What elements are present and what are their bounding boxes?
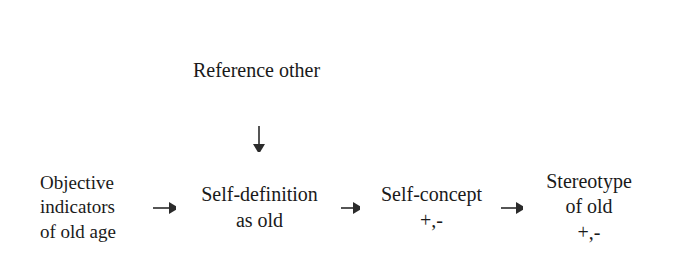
node-self-concept[interactable]: Self-concept +,-	[360, 152, 503, 263]
node-self-concept-line-1: Self-concept	[381, 182, 482, 208]
node-reference-other-line-1: Reference other	[193, 58, 320, 84]
node-self-definition-as-old[interactable]: Self-definition as old	[176, 152, 343, 264]
flow-diagram: Reference other Objective indicators of …	[0, 0, 686, 280]
node-self-concept-line-2: +,-	[420, 208, 443, 234]
node-objective-indicators-line-3: of old age	[40, 220, 116, 244]
node-self-definition-line-2: as old	[236, 208, 283, 234]
node-stereotype-line-3: +,-	[578, 220, 601, 246]
node-stereotype-line-1: Stereotype	[546, 169, 632, 195]
node-stereotype-line-2: of old	[565, 194, 612, 220]
node-objective-indicators[interactable]: Objective indicators of old age	[30, 152, 155, 263]
node-objective-indicators-line-2: indicators	[40, 195, 115, 219]
arrow-reference-to-self-definition	[248, 126, 272, 154]
node-reference-other[interactable]: Reference other	[155, 16, 358, 129]
node-self-definition-line-1: Self-definition	[201, 182, 318, 208]
node-objective-indicators-line-1: Objective	[40, 171, 114, 195]
node-stereotype-of-old[interactable]: Stereotype of old +,-	[523, 152, 655, 262]
